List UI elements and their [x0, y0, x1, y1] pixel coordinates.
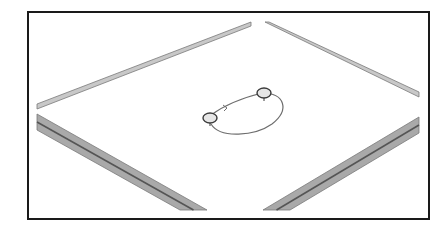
plate-diagram — [0, 0, 444, 233]
diagram-figure — [0, 0, 444, 233]
node-left — [203, 113, 217, 123]
node-right — [257, 88, 271, 98]
